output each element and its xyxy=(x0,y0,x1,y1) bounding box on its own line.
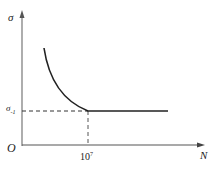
sn-curve xyxy=(44,48,168,111)
origin-label: O xyxy=(7,142,16,154)
fatigue-curve-diagram xyxy=(0,0,214,170)
y-axis xyxy=(20,10,25,146)
y-axis-label: σ xyxy=(8,12,13,23)
y-axis-arrow-icon xyxy=(20,10,25,18)
x-axis xyxy=(22,143,205,148)
x-tick-label: 107 xyxy=(80,151,93,162)
endurance-limit-label: σ-1 xyxy=(6,104,15,115)
x-axis-arrow-icon xyxy=(197,143,205,148)
x-axis-label: N xyxy=(200,150,207,161)
